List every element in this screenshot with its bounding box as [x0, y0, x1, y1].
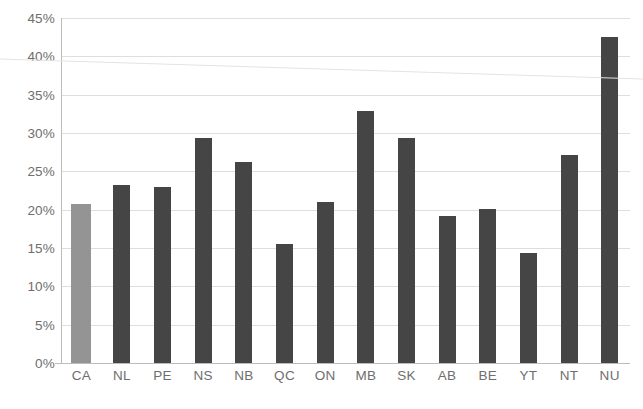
- bar-sk[interactable]: [398, 138, 415, 363]
- y-axis: 0%5%10%15%20%25%30%35%40%45%: [0, 0, 55, 409]
- y-tick-label: 25%: [7, 164, 55, 179]
- bar-nu[interactable]: [601, 37, 618, 363]
- bar-yt[interactable]: [520, 253, 537, 363]
- x-tick-label-nt: NT: [560, 368, 579, 383]
- bars-layer: [61, 18, 630, 363]
- x-tick-label-qc: QC: [274, 368, 295, 383]
- x-tick-label-nu: NU: [600, 368, 620, 383]
- x-axis: CANLPENSNBQCONMBSKABBEYTNTNU: [61, 368, 630, 392]
- bar-on[interactable]: [317, 202, 334, 363]
- y-tick-label: 35%: [7, 87, 55, 102]
- y-tick-label: 10%: [7, 279, 55, 294]
- bar-ns[interactable]: [195, 138, 212, 363]
- x-tick-label-mb: MB: [355, 368, 376, 383]
- y-tick-label: 30%: [7, 126, 55, 141]
- bar-ca[interactable]: [71, 204, 91, 363]
- bar-ab[interactable]: [439, 216, 456, 363]
- x-tick-label-nl: NL: [113, 368, 131, 383]
- x-tick-label-ab: AB: [438, 368, 457, 383]
- y-tick-label: 5%: [7, 317, 55, 332]
- x-tick-label-yt: YT: [519, 368, 537, 383]
- bar-nb[interactable]: [235, 162, 252, 363]
- y-tick-label: 15%: [7, 241, 55, 256]
- bar-chart: 0%5%10%15%20%25%30%35%40%45% CANLPENSNBQ…: [0, 0, 643, 409]
- bar-mb[interactable]: [357, 111, 374, 363]
- y-tick-label: 0%: [7, 356, 55, 371]
- y-tick-label: 45%: [7, 11, 55, 26]
- bar-pe[interactable]: [154, 187, 171, 363]
- y-tick-label: 40%: [7, 49, 55, 64]
- x-tick-label-nb: NB: [234, 368, 253, 383]
- x-tick-label-be: BE: [478, 368, 497, 383]
- bar-be[interactable]: [479, 209, 496, 363]
- x-tick-label-pe: PE: [153, 368, 172, 383]
- x-axis-line: [55, 363, 630, 364]
- x-tick-label-ns: NS: [194, 368, 213, 383]
- x-tick-label-sk: SK: [397, 368, 416, 383]
- bar-qc[interactable]: [276, 244, 293, 363]
- y-tick-label: 20%: [7, 202, 55, 217]
- x-tick-label-ca: CA: [72, 368, 91, 383]
- bar-nl[interactable]: [113, 185, 130, 363]
- bar-nt[interactable]: [561, 155, 578, 363]
- x-tick-label-on: ON: [315, 368, 336, 383]
